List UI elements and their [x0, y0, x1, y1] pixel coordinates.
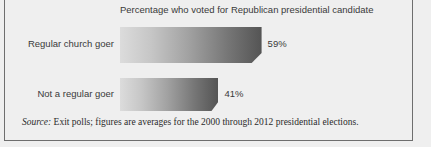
panel-left-rule	[4, 0, 5, 141]
chart-figure: Percentage who voted for Republican pres…	[0, 0, 431, 147]
source-note: Source: Exit polls; figures are averages…	[22, 116, 412, 128]
bar-value-not-a-regular-goer: 41%	[224, 88, 243, 100]
bar-not-a-regular-goer	[120, 78, 218, 111]
bar-regular-church-goer	[120, 27, 262, 63]
bar-value-regular-church-goer: 59%	[268, 38, 287, 50]
panel-right-rule	[412, 0, 413, 141]
bar-fill	[120, 78, 218, 111]
chart-title: Percentage who voted for Republican pres…	[120, 4, 420, 16]
category-label-not-a-regular-goer: Not a regular goer	[8, 88, 114, 100]
source-note-text: Exit polls; figures are averages for the…	[51, 117, 358, 127]
source-note-label: Source:	[22, 117, 51, 127]
bar-fill	[120, 27, 262, 63]
panel-bottom-rule	[4, 140, 413, 141]
category-label-regular-church-goer: Regular church goer	[8, 38, 114, 50]
